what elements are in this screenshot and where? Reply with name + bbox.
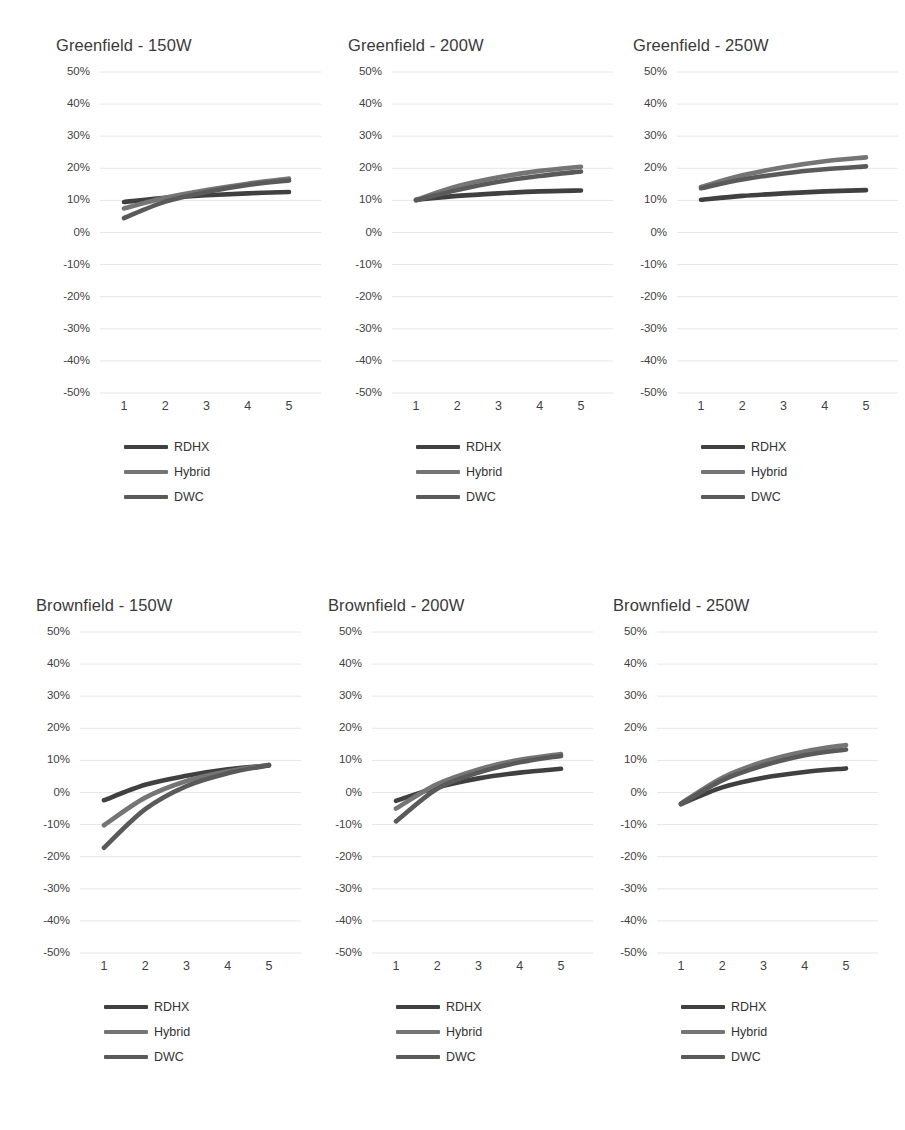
y-axis-tick-label: 40% bbox=[46, 98, 90, 109]
x-axis-tick-label: 1 bbox=[387, 960, 405, 973]
chart-title: Greenfield - 250W bbox=[615, 32, 905, 58]
y-axis-tick-label: 0% bbox=[623, 227, 667, 238]
y-axis-tick-label: 0% bbox=[318, 787, 362, 798]
legend-swatch-icon bbox=[396, 1055, 440, 1059]
x-axis-tick-label: 1 bbox=[115, 400, 133, 413]
y-axis-tick-label: 40% bbox=[318, 658, 362, 669]
y-axis-tick-label: -40% bbox=[603, 915, 647, 926]
legend-item-hybrid[interactable]: Hybrid bbox=[701, 459, 905, 484]
y-axis-tick-label: -10% bbox=[318, 819, 362, 830]
x-axis-tick-label: 2 bbox=[428, 960, 446, 973]
y-axis-tick-label: -30% bbox=[318, 883, 362, 894]
plot-canvas bbox=[615, 58, 905, 428]
gridlines bbox=[100, 72, 321, 393]
x-axis-tick-label: 5 bbox=[280, 400, 298, 413]
y-axis-tick-label: 40% bbox=[623, 98, 667, 109]
chart-title: Greenfield - 200W bbox=[330, 32, 620, 58]
x-axis-tick-label: 4 bbox=[511, 960, 529, 973]
legend-swatch-icon bbox=[681, 1055, 725, 1059]
x-axis-tick-label: 3 bbox=[470, 960, 488, 973]
y-axis-tick-label: 20% bbox=[338, 162, 382, 173]
x-axis-tick-label: 5 bbox=[857, 400, 875, 413]
series-group bbox=[396, 754, 561, 821]
y-axis-tick-label: 0% bbox=[46, 227, 90, 238]
series-group bbox=[681, 745, 846, 804]
legend-item-label: Hybrid bbox=[446, 1025, 482, 1039]
legend-swatch-icon bbox=[701, 470, 745, 474]
series-group bbox=[104, 765, 269, 848]
legend-item-label: RDHX bbox=[466, 440, 501, 454]
legend-item-label: Hybrid bbox=[154, 1025, 190, 1039]
chart-panel: Greenfield - 250W50%40%30%20%10%0%-10%-2… bbox=[615, 32, 905, 552]
y-axis-tick-label: -50% bbox=[46, 387, 90, 398]
legend-swatch-icon bbox=[416, 445, 460, 449]
y-axis-tick-label: 50% bbox=[623, 66, 667, 77]
y-axis-tick-label: -20% bbox=[603, 851, 647, 862]
legend-item-dwc[interactable]: DWC bbox=[701, 484, 905, 509]
legend-swatch-icon bbox=[104, 1055, 148, 1059]
x-axis-tick-label: 2 bbox=[733, 400, 751, 413]
gridlines bbox=[392, 72, 613, 393]
x-axis-tick-label: 2 bbox=[713, 960, 731, 973]
y-axis-tick-label: -50% bbox=[26, 947, 70, 958]
series-group bbox=[416, 167, 581, 201]
plot-area: 50%40%30%20%10%0%-10%-20%-30%-40%-50%123… bbox=[38, 58, 328, 428]
x-axis-tick-label: 1 bbox=[692, 400, 710, 413]
legend-item-rdhx[interactable]: RDHX bbox=[701, 434, 905, 459]
plot-area: 50%40%30%20%10%0%-10%-20%-30%-40%-50%123… bbox=[310, 618, 600, 988]
y-axis-tick-label: 30% bbox=[46, 130, 90, 141]
y-axis-tick-label: -30% bbox=[603, 883, 647, 894]
y-axis-tick-label: -30% bbox=[338, 323, 382, 334]
legend-item-label: DWC bbox=[446, 1050, 476, 1064]
chart-title: Greenfield - 150W bbox=[38, 32, 328, 58]
x-axis-tick-label: 1 bbox=[672, 960, 690, 973]
legend-item-label: Hybrid bbox=[174, 465, 210, 479]
legend-swatch-icon bbox=[104, 1030, 148, 1034]
plot-area: 50%40%30%20%10%0%-10%-20%-30%-40%-50%123… bbox=[595, 618, 885, 988]
gridlines bbox=[657, 632, 878, 953]
y-axis-tick-label: 50% bbox=[318, 626, 362, 637]
x-axis-tick-label: 3 bbox=[198, 400, 216, 413]
x-axis-tick-label: 5 bbox=[260, 960, 278, 973]
legend-item-label: DWC bbox=[466, 490, 496, 504]
plot-canvas bbox=[38, 58, 328, 428]
y-axis-tick-label: 10% bbox=[26, 754, 70, 765]
y-axis-tick-label: 10% bbox=[338, 194, 382, 205]
y-axis-tick-label: 40% bbox=[603, 658, 647, 669]
y-axis-tick-label: 0% bbox=[26, 787, 70, 798]
chart-panel: Brownfield - 250W50%40%30%20%10%0%-10%-2… bbox=[595, 592, 885, 1112]
legend-item-label: Hybrid bbox=[466, 465, 502, 479]
y-axis-tick-label: -40% bbox=[318, 915, 362, 926]
legend-swatch-icon bbox=[416, 470, 460, 474]
legend-swatch-icon bbox=[124, 470, 168, 474]
x-axis-tick-label: 4 bbox=[796, 960, 814, 973]
legend-item-dwc[interactable]: DWC bbox=[681, 1044, 905, 1069]
legend-item-rdhx[interactable]: RDHX bbox=[681, 994, 905, 1019]
y-axis-tick-label: -20% bbox=[26, 851, 70, 862]
x-axis-tick-label: 5 bbox=[572, 400, 590, 413]
y-axis-tick-label: -10% bbox=[26, 819, 70, 830]
legend-item-hybrid[interactable]: Hybrid bbox=[681, 1019, 905, 1044]
y-axis-tick-label: 50% bbox=[46, 66, 90, 77]
gridlines bbox=[677, 72, 898, 393]
legend-item-label: RDHX bbox=[446, 1000, 481, 1014]
x-axis-tick-label: 1 bbox=[407, 400, 425, 413]
legend-item-label: RDHX bbox=[751, 440, 786, 454]
chart-panel: Greenfield - 150W50%40%30%20%10%0%-10%-2… bbox=[38, 32, 328, 552]
x-axis-tick-label: 5 bbox=[552, 960, 570, 973]
y-axis-tick-label: 10% bbox=[603, 754, 647, 765]
x-axis-tick-label: 3 bbox=[490, 400, 508, 413]
gridlines bbox=[80, 632, 301, 953]
legend-swatch-icon bbox=[396, 1030, 440, 1034]
legend-swatch-icon bbox=[701, 445, 745, 449]
y-axis-tick-label: 10% bbox=[318, 754, 362, 765]
y-axis-tick-label: -20% bbox=[623, 291, 667, 302]
y-axis-tick-label: -40% bbox=[338, 355, 382, 366]
x-axis-tick-label: 2 bbox=[448, 400, 466, 413]
legend-item-label: DWC bbox=[731, 1050, 761, 1064]
y-axis-tick-label: 20% bbox=[26, 722, 70, 733]
y-axis-tick-label: -30% bbox=[46, 323, 90, 334]
legend-swatch-icon bbox=[124, 495, 168, 499]
y-axis-tick-label: -30% bbox=[26, 883, 70, 894]
y-axis-tick-label: 10% bbox=[46, 194, 90, 205]
